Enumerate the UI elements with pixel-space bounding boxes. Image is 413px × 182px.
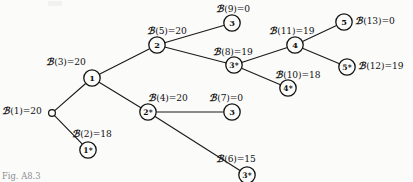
tree-node-n1[interactable]: 1 (84, 70, 100, 86)
tree-node-n5[interactable]: 5 (336, 14, 352, 30)
bound-label-b4: ℬ(4)=20 (148, 93, 188, 103)
bound-value: =18 (93, 129, 112, 139)
bound-label-b12: ℬ(12)=19 (358, 61, 403, 71)
tree-edge (55, 84, 85, 111)
bound-argument: (5) (155, 26, 168, 36)
node-label: 4 (292, 40, 298, 50)
bound-argument: (13) (363, 16, 381, 26)
bound-value: =20 (67, 57, 86, 67)
tree-node-n3top[interactable]: 3 (224, 15, 240, 31)
bound-value: =19 (295, 26, 314, 36)
bound-value: =0 (230, 93, 243, 103)
bound-symbol: ℬ (147, 25, 155, 36)
bound-argument: (4) (156, 93, 169, 103)
node-label: 5 (341, 17, 347, 27)
bound-label-b11: ℬ(11)=19 (269, 26, 314, 36)
bound-argument: (11) (277, 26, 295, 36)
node-label: 2 (154, 40, 160, 50)
bound-symbol: ℬ (213, 46, 221, 57)
tree-edge (100, 83, 141, 108)
tree-edge (100, 49, 149, 74)
tree-edge (303, 48, 339, 63)
bound-symbol: ℬ (72, 128, 80, 139)
bound-value: =20 (169, 93, 188, 103)
bound-symbol: ℬ (275, 69, 283, 80)
tree-node-n4[interactable]: 4 (287, 37, 303, 53)
bound-symbol: ℬ (358, 60, 366, 71)
node-label: 1 (89, 73, 95, 83)
tree-node-n5s[interactable]: 5* (339, 59, 355, 75)
bound-symbol: ℬ (148, 92, 156, 103)
bound-label-b1: ℬ(1)=20 (2, 106, 42, 116)
node-label: 3 (229, 18, 235, 28)
tree-node-n4s[interactable]: 4* (280, 80, 296, 96)
bound-value: =19 (234, 47, 253, 57)
bound-label-b9: ℬ(9)=0 (216, 4, 250, 14)
figure-caption: Fig. A8.3 (2, 171, 41, 181)
tree-node-n2s[interactable]: 2* (140, 104, 156, 120)
bound-label-b7: ℬ(7)=0 (209, 93, 243, 103)
bound-label-b6: ℬ(6)=15 (216, 154, 256, 164)
tree-graphic: 11*22*33*33*44*55* (0, 0, 413, 182)
bound-symbol: ℬ (46, 56, 54, 67)
bound-argument: (8) (221, 47, 234, 57)
bound-symbol: ℬ (355, 15, 363, 26)
node-label: 1* (83, 146, 92, 155)
bound-argument: (3) (54, 57, 67, 67)
tree-node-n1s[interactable]: 1* (80, 142, 96, 158)
bound-value: =20 (168, 26, 187, 36)
bound-symbol: ℬ (216, 3, 224, 14)
bound-label-b13: ℬ(13)=0 (355, 16, 395, 26)
bound-label-b2: ℬ(2)=18 (72, 129, 112, 139)
node-label: 3 (229, 107, 235, 117)
bound-value: =0 (237, 4, 250, 14)
node-label: 3* (242, 171, 251, 180)
bound-argument: (12) (366, 61, 384, 71)
bound-symbol: ℬ (216, 153, 224, 164)
figure-canvas: 11*22*33*33*44*55* ℬ(1)=20ℬ(2)=18ℬ(3)=20… (0, 0, 413, 182)
bound-argument: (7) (217, 93, 230, 103)
tree-node-n2[interactable]: 2 (149, 37, 165, 53)
bound-argument: (10) (283, 70, 301, 80)
bound-argument: (6) (224, 154, 237, 164)
bound-label-b8: ℬ(8)=19 (213, 47, 253, 57)
node-layer: 11*22*33*33*44*55* (49, 14, 356, 182)
bound-argument: (9) (224, 4, 237, 14)
tree-node-n3sbot[interactable]: 3* (239, 167, 255, 182)
bound-value: =20 (23, 106, 42, 116)
bound-symbol: ℬ (269, 25, 277, 36)
bound-value: =18 (301, 70, 320, 80)
tree-node-n3low[interactable]: 3 (224, 104, 240, 120)
bound-symbol: ℬ (2, 105, 10, 116)
node-label: 3* (229, 61, 238, 70)
bound-label-b5: ℬ(5)=20 (147, 26, 187, 36)
node-label: 5* (342, 63, 351, 72)
node-circle (49, 110, 56, 117)
bound-value: =0 (381, 16, 394, 26)
tree-node-root[interactable] (49, 110, 56, 117)
bound-label-b10: ℬ(10)=18 (275, 70, 320, 80)
bound-argument: (2) (80, 129, 93, 139)
tree-node-n3s[interactable]: 3* (226, 57, 242, 73)
node-label: 2* (143, 108, 152, 117)
bound-symbol: ℬ (209, 92, 217, 103)
bound-value: =19 (384, 61, 403, 71)
bound-argument: (1) (10, 106, 23, 116)
bound-value: =15 (237, 154, 256, 164)
bound-label-b3: ℬ(3)=20 (46, 57, 86, 67)
node-label: 4* (283, 84, 292, 93)
